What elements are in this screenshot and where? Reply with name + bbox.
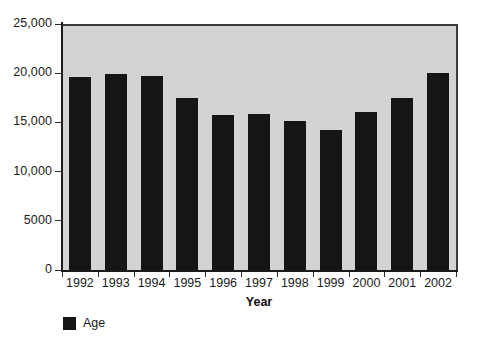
legend-swatch-age: [63, 317, 76, 330]
x-axis-label: 1996: [203, 277, 243, 290]
y-axis-tick: [55, 24, 62, 25]
chart-legend: Age: [63, 317, 105, 330]
bar-series-age: [62, 24, 456, 270]
bar: [284, 121, 306, 270]
bar-chart: 0500010,00015,00020,00025,000 1992199319…: [0, 0, 480, 345]
x-axis-title: Year: [62, 296, 456, 309]
x-axis-label: 1992: [60, 277, 100, 290]
y-axis-tick: [55, 171, 62, 172]
legend-label-age: Age: [83, 317, 105, 330]
y-axis-label: 10,000: [13, 165, 52, 178]
y-axis-label: 25,000: [13, 17, 52, 30]
y-axis-label: 0: [45, 263, 52, 276]
x-axis-label: 2000: [346, 277, 386, 290]
x-axis-label: 1994: [132, 277, 172, 290]
y-axis-tick: [55, 270, 62, 271]
y-axis-tick: [55, 122, 62, 123]
x-axis-label: 1999: [311, 277, 351, 290]
bar: [105, 74, 127, 270]
bar: [248, 114, 270, 270]
bar: [355, 112, 377, 270]
x-axis-label: 2001: [382, 277, 422, 290]
y-axis-label: 5000: [24, 214, 52, 227]
x-axis-label: 1995: [167, 277, 207, 290]
bar: [176, 98, 198, 270]
y-axis-label: 20,000: [13, 66, 52, 79]
x-axis-label: 1998: [275, 277, 315, 290]
y-axis-label: 15,000: [13, 115, 52, 128]
x-axis-line: [61, 270, 458, 272]
y-axis-tick: [55, 220, 62, 221]
bar: [391, 98, 413, 270]
y-axis-tick: [55, 73, 62, 74]
bar: [69, 77, 91, 270]
bar: [141, 76, 163, 270]
bar: [427, 73, 449, 270]
bar: [320, 130, 342, 270]
x-axis-label: 2002: [418, 277, 458, 290]
x-axis-label: 1993: [96, 277, 136, 290]
x-axis-label: 1997: [239, 277, 279, 290]
bar: [212, 115, 234, 270]
